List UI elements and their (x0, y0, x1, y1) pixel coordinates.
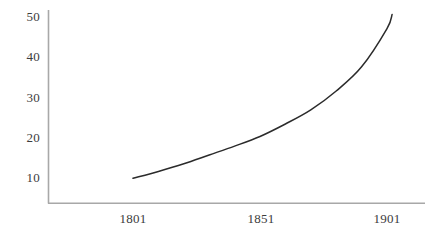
line-chart: 50 40 30 20 10 1801 1851 1901 (0, 0, 436, 241)
y-tick-label-10: 10 (6, 170, 40, 186)
y-tick-label-50: 50 (6, 9, 40, 25)
y-tick-label-30: 30 (6, 90, 40, 106)
chart-plot-area (0, 0, 436, 241)
y-tick-label-20: 20 (6, 130, 40, 146)
x-tick-label-1901: 1901 (357, 211, 417, 227)
data-series-line (133, 14, 392, 178)
x-tick-label-1801: 1801 (103, 211, 163, 227)
x-tick-label-1851: 1851 (231, 211, 291, 227)
y-tick-label-40: 40 (6, 49, 40, 65)
